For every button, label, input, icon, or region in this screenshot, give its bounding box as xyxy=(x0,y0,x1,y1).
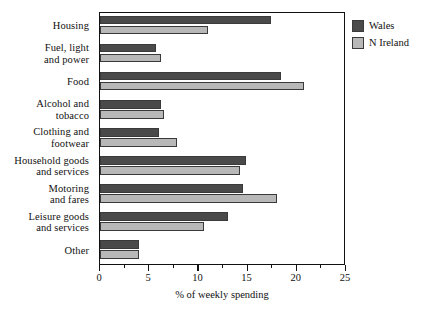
bar-wales xyxy=(100,44,156,53)
bar-pair xyxy=(100,181,346,209)
x-tick-minor xyxy=(320,265,321,268)
x-tick-label: 0 xyxy=(96,272,101,283)
x-tick-minor xyxy=(222,265,223,268)
legend-item-n-ireland: N Ireland xyxy=(352,35,424,50)
category-label: Fuel, light and power xyxy=(0,43,89,66)
legend-item-wales: Wales xyxy=(352,18,424,33)
bar-n-ireland xyxy=(100,138,177,147)
bar-n-ireland xyxy=(100,222,204,231)
bar-wales xyxy=(100,184,243,193)
x-tick-minor xyxy=(124,265,125,268)
bar-group: Clothing and footwear xyxy=(0,124,426,152)
bar-wales xyxy=(100,128,159,137)
x-tick-label: 25 xyxy=(340,272,351,283)
bar-group: Other xyxy=(0,237,426,265)
x-tick-major xyxy=(247,265,248,271)
bar-pair xyxy=(100,96,346,124)
bar-wales xyxy=(100,100,161,109)
x-tick-minor xyxy=(173,265,174,268)
bar-n-ireland xyxy=(100,110,164,119)
bar-n-ireland xyxy=(100,54,161,63)
bar-n-ireland xyxy=(100,166,240,175)
category-label: Food xyxy=(0,76,89,88)
x-tick-major xyxy=(99,265,100,271)
bar-pair xyxy=(100,209,346,237)
x-tick-minor xyxy=(271,265,272,268)
category-label: Household goods and services xyxy=(0,155,89,178)
legend-swatch-n-ireland xyxy=(352,37,364,49)
bar-wales xyxy=(100,240,139,249)
x-tick-major xyxy=(148,265,149,271)
legend: Wales N Ireland xyxy=(352,18,424,52)
x-tick-major xyxy=(296,265,297,271)
bar-wales xyxy=(100,156,246,165)
bar-group: Food xyxy=(0,68,426,96)
bar-chart: HousingFuel, light and powerFoodAlcohol … xyxy=(0,0,426,310)
bar-pair xyxy=(100,153,346,181)
bar-pair xyxy=(100,68,346,96)
category-label: Leisure goods and services xyxy=(0,211,89,234)
bar-wales xyxy=(100,72,281,81)
bar-pair xyxy=(100,124,346,152)
x-tick-label: 10 xyxy=(192,272,203,283)
bar-n-ireland xyxy=(100,82,304,91)
legend-label-n-ireland: N Ireland xyxy=(369,37,409,48)
x-tick-label: 15 xyxy=(241,272,252,283)
x-axis: % of weekly spending 0510152025 xyxy=(99,265,345,310)
bar-wales xyxy=(100,212,228,221)
bar-pair xyxy=(100,237,346,265)
legend-label-wales: Wales xyxy=(369,20,394,31)
category-label: Alcohol and tobacco xyxy=(0,99,89,122)
bar-n-ireland xyxy=(100,250,139,259)
category-label: Other xyxy=(0,245,89,257)
bar-n-ireland xyxy=(100,26,208,35)
bar-group: Alcohol and tobacco xyxy=(0,96,426,124)
x-tick-label: 20 xyxy=(291,272,302,283)
bar-pair xyxy=(100,12,346,40)
x-tick-major xyxy=(197,265,198,271)
x-tick-major xyxy=(345,265,346,271)
category-label: Clothing and footwear xyxy=(0,127,89,150)
bar-wales xyxy=(100,16,271,25)
bar-group: Leisure goods and services xyxy=(0,209,426,237)
bar-group: Household goods and services xyxy=(0,153,426,181)
x-axis-title: % of weekly spending xyxy=(99,289,345,300)
bar-n-ireland xyxy=(100,194,277,203)
category-label: Motoring and fares xyxy=(0,183,89,206)
bar-group: Motoring and fares xyxy=(0,181,426,209)
x-tick-label: 5 xyxy=(146,272,151,283)
bar-pair xyxy=(100,40,346,68)
category-label: Housing xyxy=(0,20,89,32)
legend-swatch-wales xyxy=(352,20,364,32)
